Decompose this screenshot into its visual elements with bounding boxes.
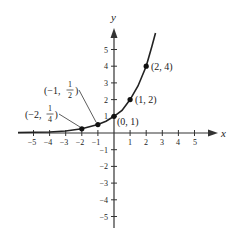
leader-line-neg2 <box>59 114 80 127</box>
svg-text:−1: −1 <box>99 146 108 155</box>
label-neg1: (−1, 1 2 ) <box>44 80 78 100</box>
svg-text:): ) <box>75 85 78 97</box>
label-0: (0, 1) <box>117 116 139 128</box>
svg-text:5: 5 <box>193 138 197 147</box>
svg-text:3: 3 <box>104 79 108 88</box>
svg-text:−4: −4 <box>99 196 108 205</box>
svg-text:4: 4 <box>104 62 108 71</box>
svg-text:−2: −2 <box>99 162 108 171</box>
svg-text:2: 2 <box>144 138 148 147</box>
x-tick-labels: −5 −4 −3 −2 −1 1 2 3 4 5 <box>28 138 197 147</box>
point-2 <box>144 64 149 69</box>
label-2: (2, 4) <box>151 61 173 73</box>
svg-text:−5: −5 <box>28 138 37 147</box>
svg-text:−3: −3 <box>99 179 108 188</box>
point-1 <box>128 97 133 102</box>
point-neg1 <box>95 122 100 127</box>
label-neg2: (−2, 1 4 ) <box>25 104 58 124</box>
svg-text:(−1,: (−1, <box>44 85 60 97</box>
svg-text:(−2,: (−2, <box>25 109 41 121</box>
svg-text:4: 4 <box>48 115 52 124</box>
svg-text:1: 1 <box>48 104 52 113</box>
svg-text:1: 1 <box>128 138 132 147</box>
svg-text:−5: −5 <box>99 213 108 222</box>
label-1: (1, 2) <box>135 94 157 106</box>
y-axis-label: y <box>110 11 116 23</box>
exponential-graph: x y −5 −4 −3 −2 −1 1 2 3 4 5 <box>0 0 234 240</box>
svg-text:−4: −4 <box>44 138 53 147</box>
svg-text:4: 4 <box>176 138 180 147</box>
x-axis-arrow-icon <box>208 130 218 137</box>
svg-text:2: 2 <box>68 91 72 100</box>
svg-text:5: 5 <box>104 46 108 55</box>
svg-text:1: 1 <box>68 80 72 89</box>
svg-text:2: 2 <box>104 96 108 105</box>
y-axis-arrow-icon <box>111 28 118 38</box>
svg-text:3: 3 <box>160 138 164 147</box>
x-axis-label: x <box>220 127 226 139</box>
svg-text:−3: −3 <box>60 138 69 147</box>
leader-line-neg1 <box>79 90 96 122</box>
svg-text:): ) <box>55 109 58 121</box>
svg-text:−2: −2 <box>76 138 85 147</box>
point-0 <box>111 114 116 119</box>
